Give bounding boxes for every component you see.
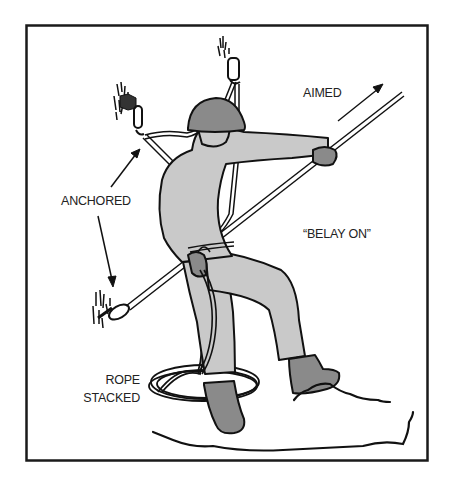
anchored-label: ANCHORED xyxy=(61,194,131,209)
belay-on-label: “BELAY ON” xyxy=(303,227,371,242)
aimed-label: AIMED xyxy=(303,86,342,101)
belay-illustration xyxy=(0,0,451,485)
stacked-label: STACKED xyxy=(73,391,140,406)
rope-label: ROPE xyxy=(102,373,140,388)
guide-glove xyxy=(313,147,337,166)
